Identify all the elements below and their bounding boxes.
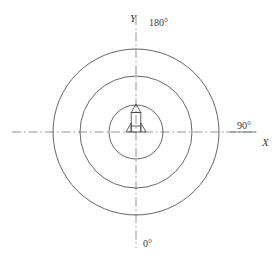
bearing-label-90: 90°: [237, 121, 251, 131]
y-axis-label: Y: [130, 13, 136, 24]
rocket-left-fin: [126, 123, 131, 132]
diagram-canvas: Y X 180° 90° 0°: [0, 0, 277, 262]
bearing-label-0: 0°: [143, 239, 152, 249]
rocket-right-fin: [141, 123, 146, 132]
concentric-range-ring-diagram: [0, 0, 277, 262]
bearing-label-180: 180°: [149, 18, 168, 28]
rocket-nozzle: [131, 126, 141, 132]
x-axis-label: X: [262, 137, 269, 148]
